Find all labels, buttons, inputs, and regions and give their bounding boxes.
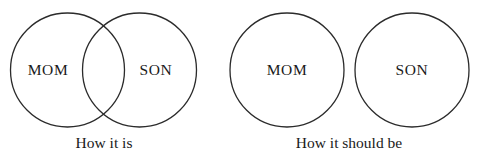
caption-how-it-is: How it is xyxy=(76,134,133,152)
set-label-mom-left: MOM xyxy=(28,62,69,78)
panel-how-it-should-be: MOM SON How it should be xyxy=(241,0,483,161)
caption-how-it-should-be: How it should be xyxy=(296,134,402,152)
panel-how-it-is: MOM SON How it is xyxy=(0,0,241,161)
set-label-son-right: SON xyxy=(396,62,429,78)
set-label-son-left: SON xyxy=(140,62,173,78)
set-label-mom-right: MOM xyxy=(267,62,308,78)
venn-diagram-figure: MOM SON How it is MOM SON How it should … xyxy=(0,0,483,161)
